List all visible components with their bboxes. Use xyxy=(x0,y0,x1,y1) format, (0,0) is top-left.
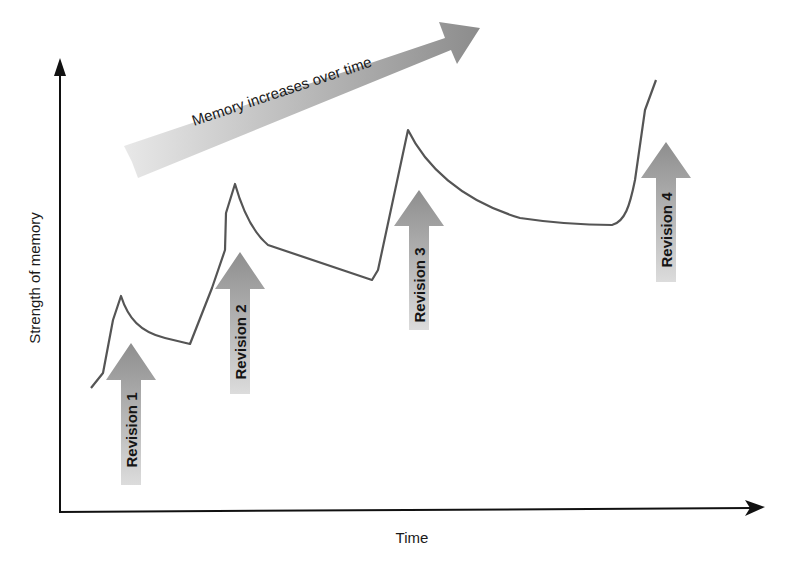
trend-arrow: Memory increases over time xyxy=(124,22,480,178)
revision-arrow-4: Revision 4 xyxy=(641,142,691,282)
y-axis-arrowhead-icon xyxy=(54,58,66,76)
memory-curve xyxy=(91,80,656,388)
revision-arrow-1: Revision 1 xyxy=(106,343,156,485)
y-axis-label: Strength of memory xyxy=(26,212,43,344)
revision-arrow-3: Revision 3 xyxy=(394,190,444,330)
revision-arrow-2: Revision 2 xyxy=(215,252,265,394)
revision-4-label: Revision 4 xyxy=(658,192,675,268)
memory-diagram: Memory increases over time Strength of m… xyxy=(0,0,790,561)
x-axis xyxy=(59,508,752,512)
revision-3-label: Revision 3 xyxy=(411,247,428,322)
revision-1-label: Revision 1 xyxy=(123,392,140,467)
x-axis-label: Time xyxy=(396,529,429,546)
revision-2-label: Revision 2 xyxy=(232,304,249,379)
